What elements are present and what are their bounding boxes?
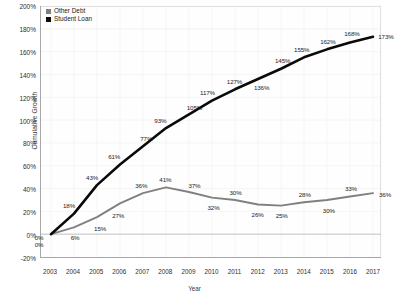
data-label: 30% (230, 188, 242, 195)
data-label: 105% (187, 103, 202, 110)
data-label: 0% (35, 234, 44, 241)
x-axis-title: Year (0, 285, 389, 292)
data-label: 37% (188, 181, 200, 188)
x-axis-tick: 2016 (343, 268, 357, 275)
x-axis-tick: 2005 (89, 268, 103, 275)
legend-label: Student Loan (54, 16, 92, 22)
x-axis-tick: 2013 (274, 268, 288, 275)
data-label: 25% (276, 212, 288, 219)
x-axis-tick: 2014 (297, 268, 311, 275)
legend-label: Other Debt (54, 8, 85, 14)
data-label: 41% (159, 176, 171, 183)
data-label: 162% (320, 37, 335, 44)
chart-legend: Other DebtStudent Loan (46, 8, 92, 23)
x-axis-tick: 2004 (66, 268, 80, 275)
x-axis-tick: 2017 (366, 268, 380, 275)
x-axis-tick: 2015 (320, 268, 334, 275)
data-label: 36% (379, 190, 391, 197)
x-axis-tick: 2008 (158, 268, 172, 275)
data-label: 27% (112, 212, 124, 219)
x-axis-tick: 2010 (204, 268, 218, 275)
data-label: 43% (86, 173, 98, 180)
data-label: 155% (294, 45, 309, 52)
data-label: 32% (207, 204, 219, 211)
data-label: 168% (344, 29, 359, 36)
data-label: 173% (378, 32, 393, 39)
legend-item[interactable]: Other Debt (46, 8, 92, 14)
data-label: 145% (275, 57, 290, 64)
x-axis-tick: 2003 (43, 268, 57, 275)
data-label: 127% (227, 77, 242, 84)
data-label: 117% (200, 89, 215, 96)
data-label: 18% (63, 202, 75, 209)
data-label: 30% (323, 206, 335, 213)
data-label: 77% (140, 134, 152, 141)
legend-item[interactable]: Student Loan (46, 16, 92, 22)
data-label: 93% (154, 116, 166, 123)
x-axis-tick: 2006 (112, 268, 126, 275)
data-label: 36% (135, 181, 147, 188)
x-axis-tick: 2011 (228, 268, 242, 275)
x-axis-tick: 2007 (135, 268, 149, 275)
data-label: 15% (94, 224, 106, 231)
data-label: 26% (252, 211, 264, 218)
data-label: 6% (71, 234, 80, 241)
data-label: 33% (345, 185, 357, 192)
data-label: 0% (35, 241, 44, 248)
data-label: 136% (254, 84, 269, 91)
legend-color-swatch (46, 17, 51, 22)
data-label: 28% (299, 191, 311, 198)
data-label: 61% (108, 153, 120, 160)
legend-color-swatch (46, 9, 51, 14)
x-axis-tick: 2012 (251, 268, 265, 275)
x-axis-tick: 2009 (181, 268, 195, 275)
